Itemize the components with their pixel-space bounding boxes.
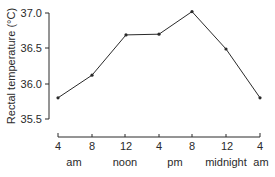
temperature-line bbox=[58, 12, 260, 98]
x-tick-label: 4 bbox=[55, 140, 61, 152]
x-tick-label: 12 bbox=[221, 140, 233, 152]
data-point bbox=[56, 96, 59, 99]
data-point bbox=[124, 33, 127, 36]
x-tick-label: 8 bbox=[189, 140, 195, 152]
y-axis-title: Rectal temperature (°C) bbox=[5, 8, 17, 124]
y-axis: 37.0 36.5 36.0 35.5 Rectal temperature (… bbox=[5, 7, 49, 125]
y-tick-label: 37.0 bbox=[21, 7, 42, 19]
line-chart: 37.0 36.5 36.0 35.5 Rectal temperature (… bbox=[0, 0, 275, 177]
temperature-series bbox=[56, 10, 261, 99]
data-point bbox=[258, 96, 261, 99]
y-tick-label: 36.5 bbox=[21, 42, 42, 54]
period-label-noon: noon bbox=[113, 156, 137, 168]
period-label-midnight: midnight bbox=[205, 156, 247, 168]
data-point bbox=[157, 33, 160, 36]
data-point bbox=[224, 47, 227, 50]
data-point bbox=[190, 10, 193, 13]
y-tick-label: 35.5 bbox=[21, 113, 42, 125]
x-tick-label: 8 bbox=[89, 140, 95, 152]
period-label-am-end: am bbox=[253, 156, 268, 168]
x-tick-label: 4 bbox=[156, 140, 162, 152]
x-axis: 4 8 12 4 8 12 4 am noon pm midnight am bbox=[55, 133, 269, 168]
x-tick-label: 12 bbox=[120, 140, 132, 152]
y-tick-label: 36.0 bbox=[21, 78, 42, 90]
x-tick-label: 4 bbox=[257, 140, 263, 152]
period-label-am: am bbox=[66, 156, 81, 168]
period-label-pm: pm bbox=[167, 156, 182, 168]
data-point bbox=[90, 74, 93, 77]
